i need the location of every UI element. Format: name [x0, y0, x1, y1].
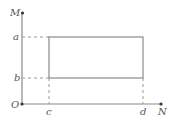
label-o: O — [11, 99, 19, 110]
label-m: M — [9, 7, 21, 18]
point-o — [20, 102, 23, 105]
rectangle-region — [49, 37, 143, 78]
label-d: d — [140, 106, 146, 117]
label-n: N — [157, 106, 168, 117]
label-a: a — [13, 31, 19, 42]
label-b: b — [14, 72, 20, 83]
point-m — [21, 11, 24, 14]
diagram-canvas: M a b O c d N — [0, 0, 176, 125]
label-c: c — [46, 106, 52, 117]
